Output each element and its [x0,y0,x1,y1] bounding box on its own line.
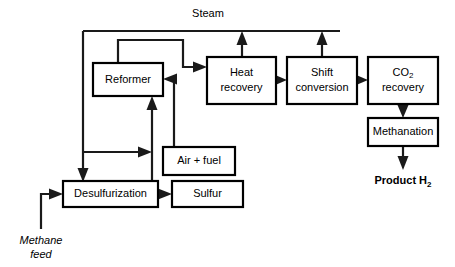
box-co2-recovery-label-line2: recovery [382,81,425,93]
box-shift-conversion[interactable]: Shift conversion [287,57,357,104]
box-methanation[interactable]: Methanation [368,118,438,146]
box-shift-conversion-label-line2: conversion [295,81,348,93]
box-reformer-label: Reformer [105,73,151,85]
process-flow-diagram: Reformer Heat recovery Shift conversion … [0,0,455,267]
box-air-fuel[interactable]: Air + fuel [163,147,235,175]
box-heat-recovery[interactable]: Heat recovery [207,57,276,104]
box-heat-recovery-label-line1: Heat [230,66,253,78]
box-desulfurization-label: Desulfurization [74,187,147,199]
steam-label: Steam [192,7,224,19]
flow-heat-recovery-steam-out [237,31,248,57]
flow-canvas: Reformer Heat recovery Shift conversion … [0,0,455,267]
co2-main: CO [393,66,410,78]
flow-desulfurization-to-reformer [147,96,158,181]
box-desulfurization[interactable]: Desulfurization [63,181,158,207]
product-h2-label: Product H2 [374,174,432,189]
box-air-fuel-label: Air + fuel [177,154,221,166]
box-heat-recovery-label-line2: recovery [220,81,263,93]
box-shift-conversion-label-line1: Shift [311,66,333,78]
box-sulfur-label: Sulfur [193,187,222,199]
product-h2-main: Product H [374,174,427,186]
flow-shift-conversion-steam-out [317,31,328,57]
co2-subscript: 2 [409,71,414,80]
box-co2-recovery[interactable]: CO2 recovery [368,57,438,104]
box-methanation-label: Methanation [373,125,434,137]
methane-feed-label-line1: Methane [20,234,63,246]
flow-methanation-to-product-h2 [398,146,409,170]
flow-methane-feed-to-desulfurization [41,189,63,230]
flow-steam-branch-to-reformer-inlet [83,147,152,158]
flow-desulfurization-to-sulfur [158,189,172,200]
box-sulfur[interactable]: Sulfur [172,181,243,207]
product-h2-subscript: 2 [427,180,432,189]
flow-co2-recovery-to-methanation [398,104,409,118]
methane-feed-label-line2: feed [30,248,52,260]
flow-steam-header-to-desulfurization [78,31,89,182]
box-reformer[interactable]: Reformer [93,63,163,96]
flow-air-fuel-to-reformer [163,74,177,148]
